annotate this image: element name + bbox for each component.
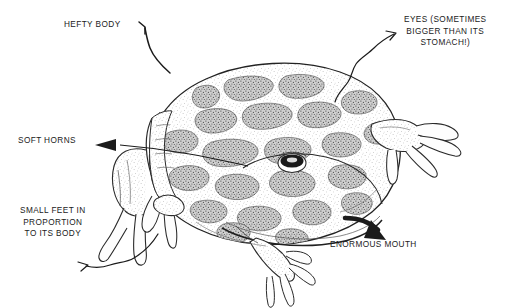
label-small-feet: SMALL FEET IN PROPORTION TO ITS BODY: [20, 204, 86, 239]
label-enormous-mouth: ENORMOUS MOUTH: [330, 238, 417, 250]
arrow-small-feet: [78, 234, 158, 271]
frog-anatomy-illustration: HEFTY BODY EYES (SOMETIMES BIGGER THAN I…: [0, 0, 521, 308]
arrow-eyes: [335, 31, 396, 102]
label-eyes: EYES (SOMETIMES BIGGER THAN ITS STOMACH!…: [404, 13, 487, 48]
arrow-enormous-mouth: [345, 218, 386, 240]
arrow-hefty-body: [139, 22, 170, 73]
label-soft-horns: SOFT HORNS: [18, 134, 76, 146]
arrow-soft-horns: [95, 139, 248, 166]
label-hefty-body: HEFTY BODY: [64, 18, 121, 30]
